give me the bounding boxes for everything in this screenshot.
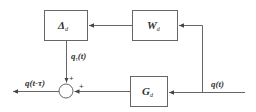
output-signal-label: q(t-τ) [25,79,45,88]
input-signal-label: q(t) [211,80,224,89]
sum-right-plus-sign: + [79,83,84,91]
delta-output-signal-label: qτ(t) [71,52,86,62]
diagram-canvas [0,0,256,112]
delta-block-label: Δd [58,20,68,32]
sum-top-plus-sign: + [69,75,74,83]
branch-to-w-line [179,26,203,93]
g-block-label: Gd [142,86,153,98]
summing-junction [59,84,73,98]
w-block-label: Wd [147,20,160,32]
